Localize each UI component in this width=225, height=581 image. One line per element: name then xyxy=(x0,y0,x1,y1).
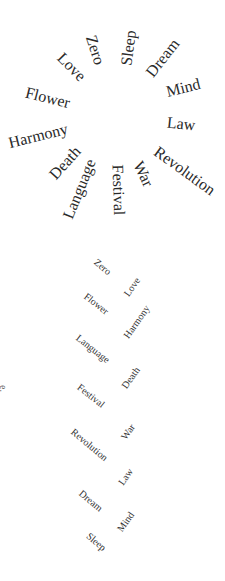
radial-word-law: Law xyxy=(166,115,196,134)
radial-word-festival: Festival xyxy=(109,164,127,215)
zigzag-left-word-dream: Dream xyxy=(77,488,104,513)
zigzag-left-word-sleep: Sleep xyxy=(84,531,107,553)
radial-word-sleep: Sleep xyxy=(119,29,140,66)
zigzag-right-word-war: War xyxy=(119,422,137,441)
zigzag-right-word-love: Love xyxy=(122,276,142,299)
radial-word-revolution: Revolution xyxy=(152,144,219,199)
zigzag-right-word-law: Law xyxy=(117,467,135,487)
zigzag-left-word-language: Language xyxy=(74,333,111,365)
zigzag-left-word-flower: Flower xyxy=(82,291,110,316)
radial-word-war: War xyxy=(130,159,156,190)
radial-word-harmony: Harmony xyxy=(7,121,70,151)
edge-text-fragment: . xyxy=(0,494,7,497)
zigzag-right-word-mind: Mind xyxy=(116,510,137,533)
zigzag-left-word-festival: Festival xyxy=(75,382,106,409)
radial-word-flower: Flower xyxy=(24,85,72,111)
zigzag-left-word-zero: Zero xyxy=(92,257,113,277)
zigzag-left-word-revolution: Revolution xyxy=(69,427,109,463)
radial-word-love: Love xyxy=(54,50,89,85)
zigzag-right-word-death: Death xyxy=(120,365,142,390)
zigzag-right-word-harmony: Harmony xyxy=(122,304,152,341)
radial-word-mind: Mind xyxy=(164,76,202,100)
edge-text-fragment: e. xyxy=(0,385,9,392)
radial-word-dream: Dream xyxy=(143,36,182,80)
radial-word-zero: Zero xyxy=(83,33,108,67)
